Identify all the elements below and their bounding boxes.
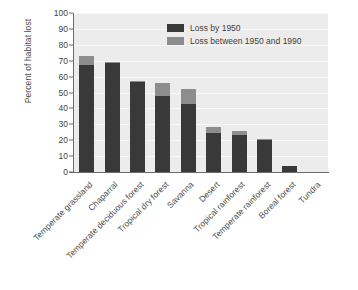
- bar-segment-loss-1950-1990[interactable]: [181, 89, 196, 103]
- bar-segment-loss-1950-1990[interactable]: [257, 139, 272, 140]
- bar-segment-loss-1950-1990[interactable]: [130, 81, 145, 82]
- bar-group[interactable]: [232, 131, 247, 172]
- y-axis-tick-label: 70: [40, 57, 68, 65]
- bar-segment-loss-1950-1990[interactable]: [232, 131, 247, 135]
- bar-group[interactable]: [155, 83, 170, 172]
- bar-group[interactable]: [79, 56, 94, 172]
- bar-segment-loss-by-1950[interactable]: [155, 96, 170, 172]
- bar-group[interactable]: [206, 127, 221, 172]
- habitat-loss-bar-chart: Percent of habitat lost 1009080706050403…: [0, 0, 358, 290]
- x-axis-line: [69, 172, 329, 173]
- y-axis: 1009080706050403020100: [40, 8, 68, 180]
- y-axis-tick-label: 30: [40, 120, 68, 128]
- bar-group[interactable]: [105, 62, 120, 172]
- bar-segment-loss-by-1950[interactable]: [79, 65, 94, 172]
- y-axis-tick-label: 10: [40, 152, 68, 160]
- y-axis-title: Percent of habitat lost: [23, 0, 33, 131]
- legend-item[interactable]: Loss between 1950 and 1990: [167, 36, 302, 46]
- bar-segment-loss-by-1950[interactable]: [105, 63, 120, 172]
- bar-segment-loss-by-1950[interactable]: [181, 104, 196, 172]
- bar-segment-loss-1950-1990[interactable]: [79, 56, 94, 66]
- bar-segment-loss-by-1950[interactable]: [206, 133, 221, 172]
- bar-segment-loss-1950-1990[interactable]: [105, 62, 120, 63]
- bar-segment-loss-by-1950[interactable]: [130, 81, 145, 172]
- bar-group[interactable]: [257, 139, 272, 172]
- bar-group[interactable]: [282, 166, 297, 172]
- y-axis-tick-label: 90: [40, 25, 68, 33]
- y-axis-tick-label: 20: [40, 136, 68, 144]
- legend-item[interactable]: Loss by 1950: [167, 23, 302, 33]
- bar-segment-loss-by-1950[interactable]: [282, 166, 297, 172]
- legend-label: Loss between 1950 and 1990: [190, 36, 302, 46]
- bar-group[interactable]: [181, 89, 196, 172]
- y-axis-tick-label: 40: [40, 104, 68, 112]
- legend-label: Loss by 1950: [190, 23, 241, 33]
- bar-segment-loss-by-1950[interactable]: [232, 135, 247, 172]
- bar-segment-loss-1950-1990[interactable]: [206, 127, 221, 133]
- y-axis-tick-label: 100: [40, 9, 68, 17]
- y-axis-tick-label: 50: [40, 89, 68, 97]
- legend-swatch-icon: [167, 37, 184, 45]
- bar-segment-loss-by-1950[interactable]: [257, 140, 272, 172]
- x-axis-label[interactable]: Tundra: [297, 179, 323, 205]
- bar-group[interactable]: [130, 81, 145, 172]
- y-axis-tick-label: 60: [40, 73, 68, 81]
- y-axis-tick-label: 0: [40, 168, 68, 176]
- x-axis-label[interactable]: Savanna: [165, 179, 196, 210]
- y-axis-tick-label: 80: [40, 41, 68, 49]
- legend: Loss by 1950Loss between 1950 and 1990: [167, 23, 302, 49]
- bar-segment-loss-1950-1990[interactable]: [155, 83, 170, 96]
- legend-swatch-icon: [167, 24, 184, 32]
